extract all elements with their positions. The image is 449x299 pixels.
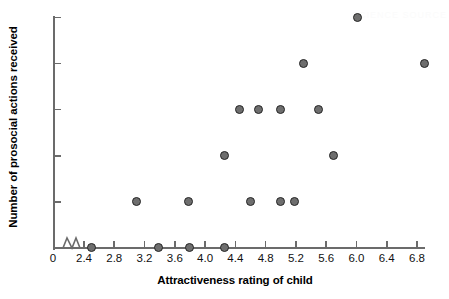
x-tick-label-6.8: 6.8 — [397, 252, 437, 265]
data-point — [276, 197, 285, 206]
y-tick-4 — [54, 63, 61, 65]
x-axis-break-icon — [58, 236, 84, 250]
data-point — [299, 59, 308, 68]
data-point — [290, 197, 299, 206]
data-point — [185, 243, 194, 252]
data-point — [87, 243, 96, 252]
x-axis-origin-label: 0 — [42, 252, 64, 265]
y-tick-2 — [54, 155, 61, 157]
x-tick-5.2 — [295, 241, 297, 248]
data-point — [353, 13, 362, 22]
data-point — [329, 151, 338, 160]
x-tick-4.0 — [204, 241, 206, 248]
x-tick-5.6 — [325, 241, 327, 248]
y-tick-5 — [54, 17, 61, 19]
y-tick-1 — [54, 201, 61, 203]
x-tick-3.6 — [174, 241, 176, 248]
data-point — [220, 243, 229, 252]
data-point — [184, 197, 193, 206]
x-tick-4.4 — [235, 241, 237, 248]
data-point — [154, 243, 163, 252]
x-axis-line — [53, 247, 425, 249]
data-point — [132, 197, 141, 206]
x-tick-2.8 — [113, 241, 115, 248]
x-tick-2.4 — [83, 241, 85, 248]
x-tick-6.8 — [416, 241, 418, 248]
x-tick-6.0 — [356, 241, 358, 248]
data-point — [276, 105, 285, 114]
data-point — [246, 197, 255, 206]
y-tick-3 — [54, 109, 61, 111]
data-point — [254, 105, 263, 114]
data-point — [314, 105, 323, 114]
x-tick-4.8 — [265, 241, 267, 248]
x-tick-6.4 — [386, 241, 388, 248]
y-axis-line — [53, 16, 55, 250]
x-tick-3.2 — [144, 241, 146, 248]
plot-area: 0 012345 2.42.83.23.64.04.44.85.25.66.06… — [0, 0, 449, 299]
data-point — [220, 151, 229, 160]
scatter-plot-figure: SCIENCE SOURCE Number of prosocial actio… — [0, 0, 449, 299]
data-point — [420, 59, 429, 68]
data-point — [235, 105, 244, 114]
y-tick-0 — [54, 247, 61, 249]
